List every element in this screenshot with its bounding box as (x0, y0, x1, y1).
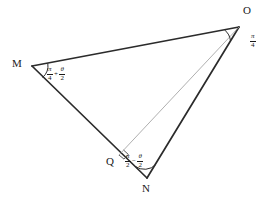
fraction-pi-over-4-O: π 4 (250, 33, 256, 49)
geometry-figure: M O N Q π 4 π 4 + θ 2 π 2 − θ 2 (0, 0, 269, 201)
fraction-denominator: 2 (59, 75, 65, 83)
fraction-denominator: 2 (137, 162, 143, 170)
angle-label-M: π 4 + θ 2 (47, 66, 65, 82)
figure-canvas (0, 0, 269, 201)
operator-plus: + (53, 71, 60, 78)
operator-minus: − (131, 158, 138, 165)
angle-label-N: π 2 − θ 2 (125, 153, 143, 169)
angle-label-O: π 4 (250, 33, 256, 49)
vertex-label-M: M (12, 58, 22, 69)
fraction-theta-over-2-M: θ 2 (59, 66, 65, 82)
fraction-denominator: 4 (250, 42, 256, 50)
edge-ON (147, 27, 239, 178)
vertex-label-N: N (142, 183, 150, 194)
fraction-theta-over-2-N: θ 2 (137, 153, 143, 169)
vertex-label-Q: Q (106, 156, 114, 167)
vertex-label-O: O (243, 5, 251, 16)
